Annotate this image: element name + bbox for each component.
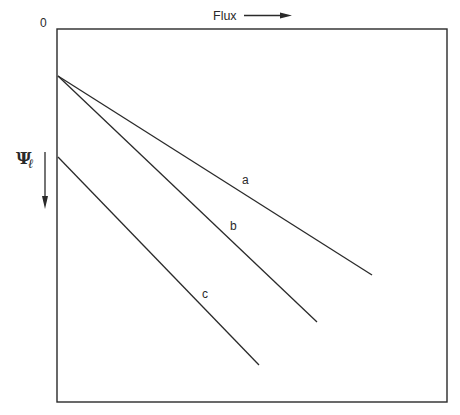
line-c-label: c	[202, 287, 208, 301]
y-axis-label: Ψ ℓ	[16, 148, 34, 171]
line-b	[58, 76, 317, 322]
diagram-canvas: 0 Flux Ψ ℓ a b c	[0, 0, 460, 415]
line-c	[58, 157, 259, 365]
right-arrow-icon	[244, 13, 292, 19]
x-axis-label: Flux	[213, 9, 237, 23]
line-b-label: b	[230, 219, 237, 233]
psi-subscript: ℓ	[28, 156, 34, 171]
line-a	[58, 76, 372, 275]
line-a-label: a	[242, 173, 249, 187]
origin-label: 0	[40, 16, 47, 30]
plot-frame	[57, 29, 447, 402]
down-arrow-icon	[42, 152, 48, 209]
